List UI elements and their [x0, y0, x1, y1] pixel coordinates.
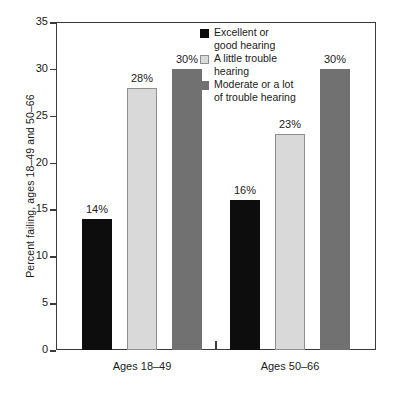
bar-value-label: 23%: [267, 118, 313, 130]
legend-label-line: Moderate or a lot: [214, 78, 296, 91]
x-axis-category-label: Ages 50–66: [230, 360, 350, 372]
y-tick-mark: [50, 22, 56, 24]
legend-item: Moderate or a lotof trouble hearing: [200, 78, 328, 103]
y-tick-label: 35: [18, 15, 48, 27]
legend: Excellent orgood hearingA little trouble…: [200, 26, 328, 104]
legend-item: Excellent orgood hearing: [200, 26, 328, 51]
y-tick-label: 30: [18, 62, 48, 74]
bar-chart: Percent failing, ages 18–49 and 50–66 05…: [0, 0, 395, 393]
y-tick-label: 15: [18, 202, 48, 214]
y-tick-label: 5: [18, 296, 48, 308]
legend-label: Excellent orgood hearing: [214, 26, 275, 51]
y-tick-mark: [50, 116, 56, 118]
group-separator-tick: [215, 341, 217, 350]
bar: [172, 69, 202, 350]
legend-label-line: Excellent or: [214, 26, 275, 39]
bar-value-label: 16%: [222, 184, 268, 196]
bar: [82, 219, 112, 350]
legend-label: Moderate or a lotof trouble hearing: [214, 78, 296, 103]
y-tick-label: 0: [18, 343, 48, 355]
y-tick-label: 20: [18, 156, 48, 168]
legend-label-line: good hearing: [214, 39, 275, 52]
y-tick-label: 25: [18, 109, 48, 121]
legend-item: A little troublehearing: [200, 52, 328, 77]
y-tick-mark: [50, 256, 56, 258]
y-tick-mark: [50, 163, 56, 165]
bar: [230, 200, 260, 350]
y-tick-mark: [50, 350, 56, 352]
legend-swatch-icon: [200, 55, 209, 64]
legend-label-line: of trouble hearing: [214, 91, 296, 104]
y-axis-title: Percent failing, ages 18–49 and 50–66: [24, 36, 36, 336]
bar: [275, 134, 305, 350]
legend-swatch-icon: [200, 29, 209, 38]
y-tick-mark: [50, 303, 56, 305]
legend-label-line: hearing: [214, 65, 277, 78]
bar: [320, 69, 350, 350]
legend-label: A little troublehearing: [214, 52, 277, 77]
legend-swatch-icon: [200, 81, 209, 90]
x-axis-category-label: Ages 18–49: [82, 360, 202, 372]
y-tick-mark: [50, 209, 56, 211]
y-tick-mark: [50, 69, 56, 71]
legend-label-line: A little trouble: [214, 52, 277, 65]
bar-value-label: 28%: [119, 72, 165, 84]
y-tick-label: 10: [18, 249, 48, 261]
bar: [127, 88, 157, 350]
bar-value-label: 14%: [74, 203, 120, 215]
